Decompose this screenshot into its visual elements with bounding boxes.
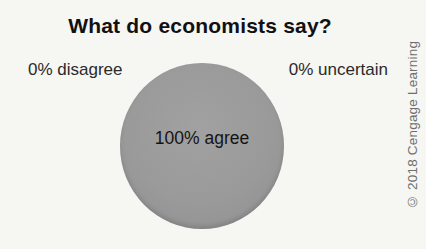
pie-slice-label-agree: 100% agree [155,128,249,149]
pie-slice-label-uncertain: 0% uncertain [289,60,388,80]
chart-title: What do economists say? [0,14,400,38]
copyright-credit: © 2018 Cengage Learning [405,40,420,208]
pie-slice-label-disagree: 0% disagree [28,60,123,80]
pie-slice-agree: 100% agree [120,63,284,229]
pie-chart-figure: What do economists say? 0% disagree 0% u… [0,0,426,249]
